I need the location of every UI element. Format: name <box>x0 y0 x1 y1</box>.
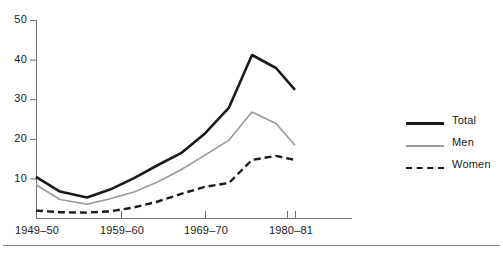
chart-legend: Total Men Women <box>406 112 503 178</box>
legend-item-total: Total <box>406 112 503 134</box>
footer-divider <box>3 245 500 246</box>
legend-item-men: Men <box>406 134 503 156</box>
y-tick-label-50: 50 <box>2 13 27 25</box>
y-tick-marks <box>30 21 37 179</box>
x-tick-marks <box>122 211 296 219</box>
series-line-total <box>36 55 295 198</box>
legend-item-women: Women <box>406 156 503 178</box>
y-tick-label-20: 20 <box>2 132 27 144</box>
x-tick-label-1949-50: 1949–50 <box>2 224 72 236</box>
legend-label-total: Total <box>452 114 476 126</box>
series-line-women <box>36 156 295 213</box>
figure: 50 40 30 20 10 1949–50 1959–60 1969–70 1… <box>0 0 503 254</box>
legend-label-women: Women <box>452 158 491 170</box>
y-tick-label-40: 40 <box>2 53 27 65</box>
legend-swatch-men-line-icon <box>406 145 444 147</box>
legend-swatch-total-line-icon <box>406 122 444 125</box>
legend-swatch-women-dashed-line-icon <box>406 167 444 169</box>
x-tick-label-1959-60: 1959–60 <box>87 224 157 236</box>
x-tick-label-1969-70: 1969–70 <box>171 224 241 236</box>
y-tick-label-10: 10 <box>2 172 27 184</box>
legend-label-men: Men <box>452 136 474 148</box>
y-tick-label-30: 30 <box>2 92 27 104</box>
x-tick-label-1980-81: 1980–81 <box>256 224 326 236</box>
